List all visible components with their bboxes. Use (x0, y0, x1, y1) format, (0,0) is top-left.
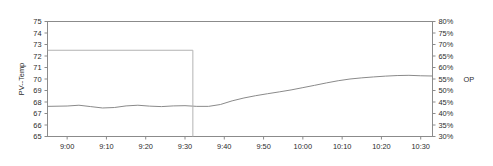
left-tick-label: 65 (33, 132, 41, 141)
x-tick-label: 9:50 (256, 142, 270, 151)
plot-area-frame (48, 22, 433, 137)
right-tick-label: 70% (439, 40, 454, 49)
left-tick-label: 66 (33, 121, 41, 130)
right-tick-label: 80% (439, 17, 454, 26)
right-tick-label: 60% (439, 63, 454, 72)
right-tick-label: 35% (439, 121, 454, 130)
chart-canvas: 7574737271706968676665 80%75%70%65%60%55… (0, 0, 493, 166)
left-tick-label: 72 (33, 52, 41, 61)
x-tick-label: 10:20 (372, 142, 391, 151)
left-tick-label: 68 (33, 98, 41, 107)
left-tick-label: 67 (33, 109, 41, 118)
x-tick-label: 10:30 (411, 142, 430, 151)
trend-chart: 7574737271706968676665 80%75%70%65%60%55… (0, 0, 493, 166)
right-tick-label: 30% (439, 132, 454, 141)
x-tick-label: 9:30 (178, 142, 192, 151)
right-tick-label: 45% (439, 98, 454, 107)
left-tick-label: 71 (33, 63, 41, 72)
right-tick-label: 75% (439, 29, 454, 38)
right-tick-label: 40% (439, 109, 454, 118)
left-tick-label: 75 (33, 17, 41, 26)
x-tick-label: 10:10 (333, 142, 352, 151)
left-tick-label: 69 (33, 86, 41, 95)
right-tick-label: 55% (439, 75, 454, 84)
x-tick-label: 9:40 (217, 142, 231, 151)
left-axis-title: PV--Temp (17, 63, 26, 95)
right-tick-label: 65% (439, 52, 454, 61)
left-tick-label: 73 (33, 40, 41, 49)
x-tick-label: 9:00 (60, 142, 74, 151)
left-tick-label: 70 (33, 75, 41, 84)
x-tick-label: 10:00 (294, 142, 313, 151)
x-tick-label: 9:20 (139, 142, 153, 151)
x-tick-label: 9:10 (99, 142, 113, 151)
op-series-label: OP (464, 75, 475, 84)
right-tick-label: 50% (439, 86, 454, 95)
left-tick-label: 74 (33, 29, 41, 38)
